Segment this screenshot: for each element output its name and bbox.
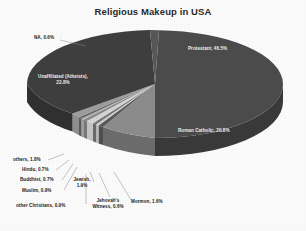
- slice-side-hindu: [79, 117, 82, 136]
- slice-label-unaffiliated-line2: 22.8%: [56, 80, 69, 85]
- slice-label-others: others, 1.8%: [13, 157, 41, 163]
- slice-label-muslim: Muslim, 0.9%: [22, 188, 51, 194]
- slice-side-jehovahs-witness: [96, 124, 99, 143]
- slice-label-jehovahs-witness-line2: Witness, 0.6%: [92, 204, 123, 209]
- leader-line-others: [48, 154, 64, 160]
- slice-label-unaffiliated-line1: Unaffiliated (Atheists),: [38, 74, 88, 79]
- slice-label-jewish-line2: 1.9%: [77, 183, 88, 188]
- slice-label-roman-catholic: Roman Catholic, 20.8%: [178, 128, 230, 134]
- leader-line-jehovahs-witness: [99, 173, 110, 197]
- slice-label-jewish: Jewish, 1.9%: [66, 177, 98, 188]
- slice-label-other-christians: other Christians, 0.9%: [16, 203, 65, 209]
- slice-label-na: NA, 0.6%: [34, 35, 54, 41]
- pie-chart-figure: Religious Makeup in USA: [0, 0, 306, 231]
- slice-side-buddhist: [82, 118, 85, 137]
- slice-label-jewish-line1: Jewish,: [74, 177, 91, 182]
- leader-line-hindu: [56, 160, 69, 170]
- slice-label-buddhist: Buddhist, 0.7%: [20, 177, 54, 183]
- slice-label-protestant: Protestant, 46.5%: [188, 46, 227, 52]
- slice-label-unaffiliated: Unaffiliated (Atheists), 22.8%: [22, 74, 104, 85]
- slice-label-hindu: Hindu, 0.7%: [22, 167, 49, 173]
- slice-label-jehovahs-witness-line1: Jehovah's: [97, 198, 120, 203]
- slice-label-jehovahs-witness: Jehovah's Witness, 0.6%: [86, 198, 130, 209]
- leader-line-mormon: [114, 172, 131, 200]
- slice-side-muslim: [84, 120, 87, 139]
- slice-side-other-christians: [93, 123, 96, 142]
- slice-side-jewish: [87, 121, 93, 141]
- slice-label-mormon: Mormon, 1.6%: [131, 199, 163, 205]
- slice-side-others: [73, 114, 80, 136]
- slice-side-mormon: [99, 125, 104, 145]
